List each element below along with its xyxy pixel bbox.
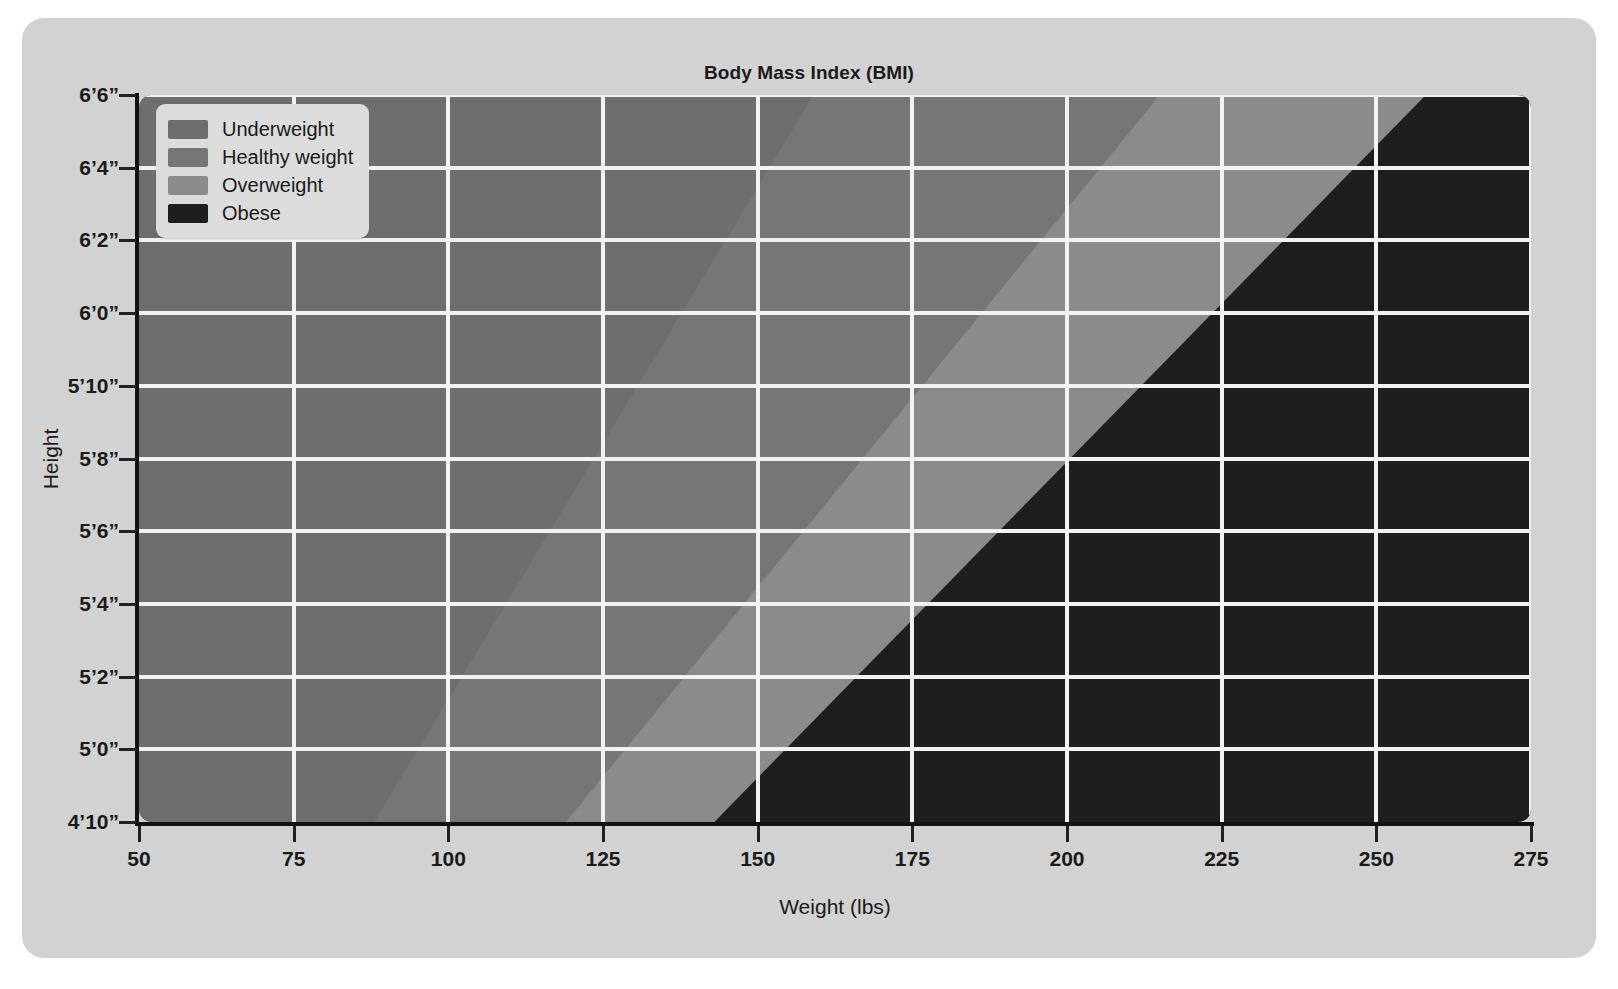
legend: UnderweightHealthy weightOverweightObese <box>156 104 369 238</box>
x-tick-mark <box>1221 826 1224 842</box>
y-tick-label: 5’0” <box>29 737 119 761</box>
y-tick-label: 5’6” <box>29 519 119 543</box>
y-tick-mark <box>119 821 136 824</box>
y-tick-label: 4’10” <box>29 810 119 834</box>
y-tick-mark <box>119 458 136 461</box>
x-tick-label: 125 <box>585 847 620 871</box>
y-tick-label: 6’2” <box>29 228 119 252</box>
legend-item[interactable]: Healthy weight <box>168 143 353 171</box>
legend-item-label: Overweight <box>222 174 323 197</box>
y-tick-label: 5’2” <box>29 665 119 689</box>
x-tick-mark <box>293 826 296 842</box>
legend-swatch-icon <box>168 148 208 167</box>
legend-item-label: Healthy weight <box>222 146 353 169</box>
y-tick-label: 6’6” <box>29 83 119 107</box>
chart-page: Body Mass Index (BMI) 507510012515017520… <box>0 0 1618 989</box>
x-tick-mark <box>602 826 605 842</box>
plot-wrapper: 5075100125150175200225250275 4’10”5’0”5’… <box>139 95 1531 822</box>
legend-item-label: Obese <box>222 202 281 225</box>
y-tick-mark <box>119 676 136 679</box>
legend-item-label: Underweight <box>222 118 334 141</box>
x-tick-label: 175 <box>895 847 930 871</box>
x-tick-mark <box>911 826 914 842</box>
x-tick-mark <box>1375 826 1378 842</box>
x-tick-mark <box>447 826 450 842</box>
x-tick-label: 250 <box>1359 847 1394 871</box>
y-tick-mark <box>119 748 136 751</box>
x-tick-mark <box>1066 826 1069 842</box>
y-tick-label: 5’4” <box>29 592 119 616</box>
y-tick-mark <box>119 239 136 242</box>
legend-item[interactable]: Obese <box>168 199 353 227</box>
x-axis-title: Weight (lbs) <box>139 895 1531 919</box>
y-axis-title: Height <box>39 428 63 489</box>
x-tick-label: 225 <box>1204 847 1239 871</box>
legend-swatch-icon <box>168 120 208 139</box>
legend-swatch-icon <box>168 204 208 223</box>
x-tick-label: 50 <box>127 847 150 871</box>
x-tick-label: 75 <box>282 847 305 871</box>
x-tick-label: 200 <box>1049 847 1084 871</box>
x-tick-label: 100 <box>431 847 466 871</box>
legend-item[interactable]: Underweight <box>168 115 353 143</box>
x-tick-mark <box>138 826 141 842</box>
y-tick-mark <box>119 94 136 97</box>
y-tick-mark <box>119 167 136 170</box>
x-axis-spine <box>135 822 1534 826</box>
y-tick-label: 6’0” <box>29 301 119 325</box>
y-tick-mark <box>119 312 136 315</box>
legend-swatch-icon <box>168 176 208 195</box>
legend-item[interactable]: Overweight <box>168 171 353 199</box>
chart-card: Body Mass Index (BMI) 507510012515017520… <box>22 18 1596 958</box>
x-tick-label: 150 <box>740 847 775 871</box>
y-tick-label: 5’10” <box>29 374 119 398</box>
y-tick-mark <box>119 385 136 388</box>
y-tick-mark <box>119 530 136 533</box>
y-tick-mark <box>119 603 136 606</box>
x-tick-mark <box>757 826 760 842</box>
page-title: Body Mass Index (BMI) <box>22 62 1596 84</box>
y-tick-label: 6’4” <box>29 156 119 180</box>
x-tick-mark <box>1530 826 1533 842</box>
x-tick-label: 275 <box>1513 847 1548 871</box>
